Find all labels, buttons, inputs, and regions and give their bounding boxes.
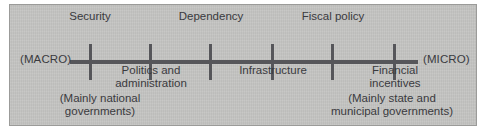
- axis-label-financial-line-1: Financial: [369, 64, 420, 77]
- axis-tick-1: [89, 44, 92, 80]
- note-left-line-2: governments): [60, 105, 141, 118]
- axis-tick-5: [331, 44, 334, 80]
- axis-label-security: Security: [69, 10, 111, 23]
- note-mainly-state-and-municipal-governments: (Mainly state and municipal governments): [331, 92, 453, 118]
- axis-label-dependency: Dependency: [179, 10, 244, 23]
- axis-label-financial-line-2: incentives: [369, 77, 420, 90]
- axis-tick-3: [209, 44, 212, 80]
- note-mainly-national-governments: (Mainly national governments): [60, 92, 141, 118]
- note-left-line-1: (Mainly national: [60, 92, 141, 105]
- macro-endcap-label: (MACRO): [20, 53, 71, 65]
- micro-endcap-label: (MICRO): [423, 53, 470, 65]
- figure-container: (MACRO) (MICRO) Security Dependency Fisc…: [0, 0, 485, 137]
- axis-label-politics-and-administration: Politics and administration: [115, 64, 187, 89]
- axis-label-fiscal-policy: Fiscal policy: [302, 10, 365, 23]
- axis-label-politics-line-2: administration: [115, 77, 187, 90]
- axis-label-politics-line-1: Politics and: [115, 64, 187, 77]
- axis-label-infrastructure: Infrastructure: [239, 64, 307, 77]
- axis-label-financial-incentives: Financial incentives: [369, 64, 420, 89]
- note-right-line-2: municipal governments): [331, 105, 453, 118]
- note-right-line-1: (Mainly state and: [331, 92, 453, 105]
